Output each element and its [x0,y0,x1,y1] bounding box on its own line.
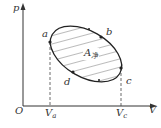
tick-label-vc: Vc [116,108,127,120]
area-label: A净 [83,48,99,60]
y-axis-arrow-icon [21,3,26,10]
y-axis-label: p [13,3,19,13]
origin-label: O [15,106,23,116]
area-label-sub: 净 [91,52,98,60]
point-d [71,70,74,73]
tick-va-sub: a [52,112,56,120]
point-c-label: c [126,76,132,86]
pv-diagram [0,0,161,128]
y-axis [21,3,26,106]
point-c [119,66,122,69]
point-b [99,35,102,38]
point-d-label: d [64,77,70,87]
direction-marker [88,28,90,30]
point-b-label: b [106,27,112,37]
tick-label-va: Va [45,108,56,120]
point-a-label: a [42,29,48,39]
direction-marker [98,79,100,81]
x-axis-label: V [149,105,156,115]
point-a [48,40,51,43]
tick-vc-sub: c [123,112,127,120]
x-axis [23,104,157,109]
